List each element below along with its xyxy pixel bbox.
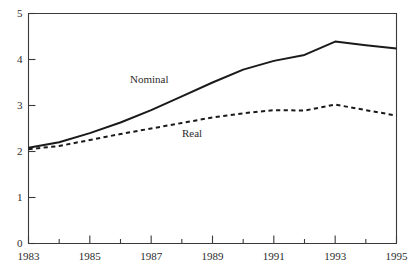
x-tick-label-1989: 1989 [193, 251, 233, 262]
y-tick-label-1: 1 [5, 192, 23, 203]
series-label-nominal: Nominal [130, 74, 169, 85]
plot-area [0, 0, 420, 279]
chart-background [0, 0, 420, 279]
y-tick-label-4: 4 [5, 54, 23, 65]
line-chart: 012345 1983198519871989199119931995 Nomi… [0, 0, 420, 279]
x-tick-label-1985: 1985 [70, 251, 110, 262]
x-tick-label-1995: 1995 [377, 251, 417, 262]
x-tick-label-1983: 1983 [9, 251, 49, 262]
x-tick-label-1993: 1993 [315, 251, 355, 262]
y-tick-label-2: 2 [5, 146, 23, 157]
x-tick-label-1991: 1991 [254, 251, 294, 262]
series-label-real: Real [182, 128, 202, 139]
y-tick-label-5: 5 [5, 8, 23, 19]
x-tick-label-1987: 1987 [131, 251, 171, 262]
y-tick-label-0: 0 [5, 238, 23, 249]
y-tick-label-3: 3 [5, 100, 23, 111]
